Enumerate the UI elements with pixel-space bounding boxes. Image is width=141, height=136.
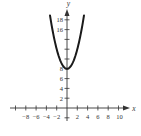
y-axis-arrow-icon (65, 9, 70, 16)
x-tick-label: 2 (76, 113, 79, 120)
x-axis (10, 106, 130, 111)
x-tick-label: 10 (116, 113, 123, 120)
x-axis-arrow-icon (123, 106, 130, 111)
y-tick-label: 18 (57, 16, 64, 23)
y-tick-label: 4 (60, 85, 64, 92)
x-tick-label: 4 (86, 113, 90, 120)
x-tick-label: 8 (107, 113, 110, 120)
x-tick-label: −2 (53, 113, 60, 120)
y-tick-label: 16 (57, 26, 64, 33)
x-axis-label: x (131, 104, 136, 113)
parabola-chart: −8 −6 −4 −2 2 4 6 8 10 2 4 6 8 16 18 x y (0, 0, 141, 136)
x-tick-label: 6 (96, 113, 100, 120)
x-tick-label: −8 (22, 113, 29, 120)
y-axis (65, 9, 70, 121)
chart-canvas: −8 −6 −4 −2 2 4 6 8 10 2 4 6 8 16 18 x y (0, 0, 141, 136)
x-tick-label: −4 (43, 113, 51, 120)
y-tick-label: 6 (60, 75, 64, 82)
y-axis-label: y (66, 0, 71, 8)
y-tick-label: 2 (60, 95, 63, 102)
x-tick-label: −6 (33, 113, 41, 120)
